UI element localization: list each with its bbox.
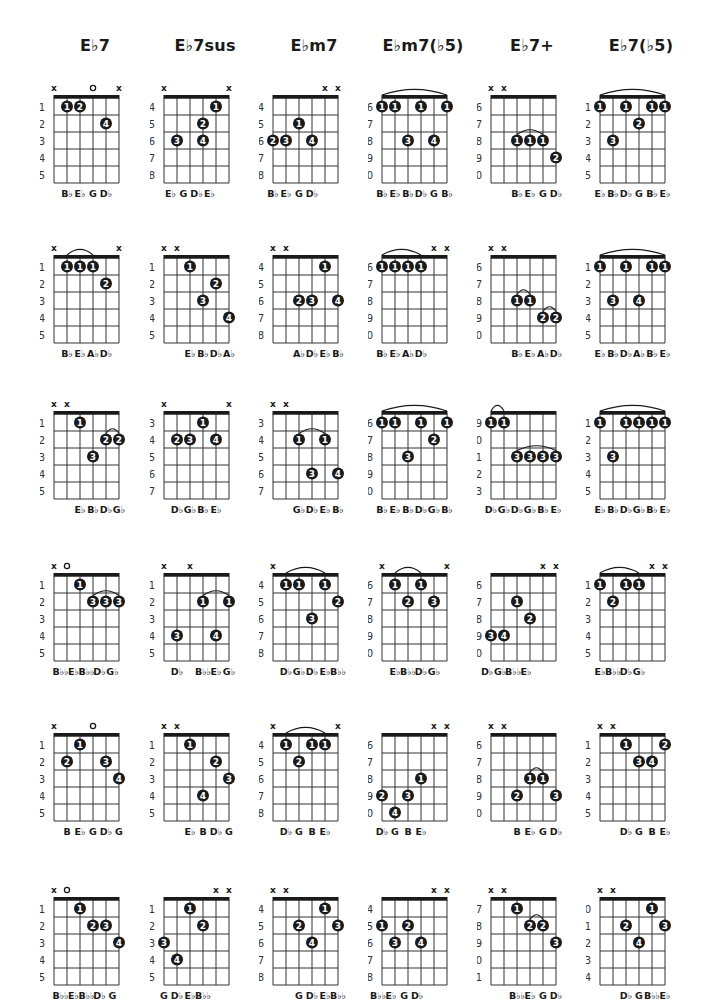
nut-bar [54, 733, 120, 737]
finger-dot: 1 [74, 261, 86, 273]
svg-text:1: 1 [283, 740, 289, 750]
finger-dot: 1 [415, 101, 427, 113]
fret-number: 9 [368, 153, 373, 164]
finger-dot: 2 [100, 434, 112, 446]
fret-number: 7 [477, 904, 482, 915]
fret-number: 15 [586, 330, 591, 341]
fret-number: 3 [150, 614, 155, 625]
muted-string-icon: x [431, 885, 437, 895]
note-name: B♭ [646, 504, 658, 515]
nut-bar [54, 897, 120, 901]
fret-number: 12 [586, 597, 591, 608]
note-name: G♭ [113, 504, 125, 515]
fret-number: 2 [40, 435, 45, 446]
fret-number: 3 [150, 938, 155, 949]
barre-arc [286, 727, 325, 733]
fret-number: 4 [259, 262, 264, 273]
fret-number: 7 [259, 955, 264, 966]
note-name: E♭ [320, 666, 331, 677]
svg-text:2: 2 [200, 921, 206, 931]
fret-number: 6 [368, 262, 373, 273]
finger-dot: 1 [306, 739, 318, 751]
svg-text:3: 3 [610, 296, 616, 306]
finger-dot: 1 [620, 739, 632, 751]
svg-text:1: 1 [649, 418, 655, 428]
svg-text:2: 2 [335, 597, 341, 607]
note-name: G♭ [428, 666, 440, 677]
finger-dot: 1 [280, 739, 292, 751]
open-string-icon [90, 85, 95, 90]
svg-text:1: 1 [597, 262, 603, 272]
note-name: G [635, 826, 643, 837]
fret-number: 13 [586, 136, 591, 147]
finger-dot: 4 [332, 295, 344, 307]
finger-dot: 3 [87, 596, 99, 608]
svg-text:3: 3 [392, 938, 398, 948]
fret-number: 5 [368, 921, 373, 932]
finger-dot: 4 [306, 135, 318, 147]
chord-diagram: 45678xx1234E♭GD♭E♭ [150, 80, 260, 205]
fret-number: 5 [150, 452, 155, 463]
svg-text:1: 1 [379, 921, 385, 931]
note-name: E♭ [525, 188, 536, 199]
finger-dot: 1 [280, 579, 292, 591]
svg-text:2: 2 [527, 614, 533, 624]
note-name: B♭♭ [195, 666, 211, 677]
finger-dot: 2 [197, 118, 209, 130]
muted-string-icon: x [64, 399, 70, 409]
svg-text:1: 1 [514, 597, 520, 607]
finger-dot: 2 [293, 920, 305, 932]
svg-text:3: 3 [116, 597, 122, 607]
note-name: A♭ [402, 348, 414, 359]
fret-number: 1 [40, 740, 45, 751]
svg-text:2: 2 [174, 435, 180, 445]
svg-text:1: 1 [527, 296, 533, 306]
note-name: D♭ [550, 348, 562, 359]
svg-text:1: 1 [283, 580, 289, 590]
nut-bar [382, 733, 448, 737]
fret-number: 5 [150, 808, 155, 819]
svg-text:3: 3 [283, 136, 289, 146]
svg-text:1: 1 [540, 774, 546, 784]
fret-number: 5 [150, 119, 155, 130]
svg-text:2: 2 [527, 921, 533, 931]
barre-arc [600, 249, 665, 255]
chord-diagram: 12345xx1134D♭B♭♭E♭G♭ [150, 558, 260, 683]
fret-number: 9 [477, 418, 482, 429]
svg-text:1: 1 [322, 740, 328, 750]
fret-number: 3 [150, 296, 155, 307]
chord-diagram: 678910xx1234D♭G♭B♭♭E♭ [477, 558, 587, 683]
svg-text:1: 1 [501, 418, 507, 428]
muted-string-icon: x [283, 399, 289, 409]
fret-number: 7 [477, 119, 482, 130]
svg-text:2: 2 [431, 435, 437, 445]
fret-number: 6 [150, 469, 155, 480]
fret-number: 4 [259, 580, 264, 591]
fret-number: 8 [477, 296, 482, 307]
finger-dot: 3 [402, 451, 414, 463]
finger-dot: 1 [524, 135, 536, 147]
fret-number: 8 [259, 808, 264, 819]
note-name: B♭ [61, 188, 73, 199]
muted-string-icon: x [488, 885, 494, 895]
fret-number: 3 [40, 296, 45, 307]
note-name: E♭ [75, 188, 86, 199]
svg-text:1: 1 [418, 580, 424, 590]
svg-text:2: 2 [379, 791, 385, 801]
nut-bar [382, 411, 448, 415]
fret-number: 14 [586, 469, 591, 480]
fret-number: 3 [40, 452, 45, 463]
finger-dot: 2 [267, 135, 279, 147]
fret-number: 5 [40, 972, 45, 983]
nut-bar [491, 411, 557, 415]
svg-text:1: 1 [200, 418, 206, 428]
svg-text:1: 1 [662, 418, 668, 428]
fret-number: 9 [477, 313, 482, 324]
fret-number: 7 [477, 597, 482, 608]
muted-string-icon: x [270, 721, 276, 731]
chord-diagram: 1112131415xx1112E♭B♭♭D♭G♭ [586, 558, 696, 683]
svg-text:3: 3 [103, 597, 109, 607]
finger-dot: 2 [659, 739, 671, 751]
note-name: A♭ [537, 348, 549, 359]
note-name: D♭ [190, 188, 202, 199]
